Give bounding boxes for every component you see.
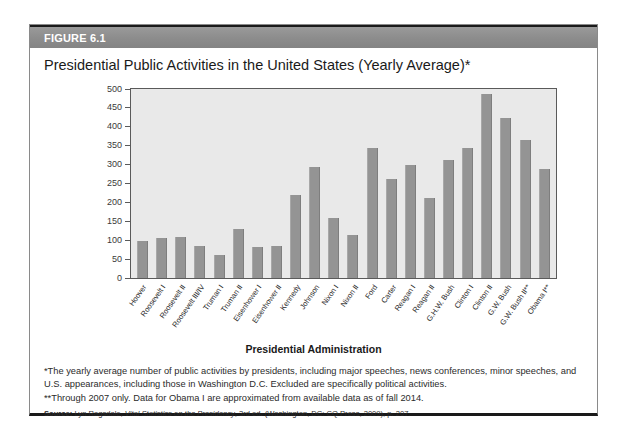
y-axis-tick-label: 200 <box>107 197 122 206</box>
bar <box>481 94 492 278</box>
bar <box>156 238 167 278</box>
figure-page: FIGURE 6.1 Presidential Public Activitie… <box>0 0 627 438</box>
source-title: Vital Statistics on the Presidency <box>125 409 235 418</box>
x-axis-tick-cell: Carter <box>386 281 397 341</box>
bar <box>367 148 378 278</box>
y-axis-tick-label: 150 <box>107 216 122 225</box>
source-publication: , 3rd ed. (Washington, DC: CQ Press, 200… <box>235 409 411 418</box>
footnote-double-asterisk: **Through 2007 only. Data for Obama I ar… <box>44 392 584 405</box>
chart-plot-wrapper: 050100150200250300350400450500 HooverRoo… <box>77 86 557 341</box>
chart-title: Presidential Public Activities in the Un… <box>44 57 470 73</box>
footnote-asterisk: *The yearly average number of public act… <box>44 365 584 392</box>
x-axis-tick-labels: HooverRoosevelt IRoosevelt IIRoosevelt I… <box>130 281 557 341</box>
figure-number-label: FIGURE 6.1 <box>44 32 106 44</box>
y-axis-tick-label: 0 <box>117 273 122 282</box>
bar <box>290 195 301 278</box>
x-axis-tick-cell: Eisenhower II <box>271 281 282 341</box>
x-axis-tick-label: Nixon II <box>338 283 360 309</box>
x-axis-title: Presidential Administration <box>30 343 597 355</box>
figure-container: FIGURE 6.1 Presidential Public Activitie… <box>29 24 598 416</box>
x-axis-tick-cell: Johnson <box>309 281 320 341</box>
y-axis-tick-label: 450 <box>107 103 122 112</box>
bar <box>500 118 511 278</box>
bar <box>271 246 282 279</box>
y-axis-tick-label: 250 <box>107 179 122 188</box>
bar <box>424 198 435 279</box>
bar <box>539 169 550 278</box>
x-axis-tick-label: Ford <box>363 283 379 301</box>
y-axis-tick-label: 100 <box>107 235 122 244</box>
bar <box>462 148 473 278</box>
source-label: Source: <box>44 409 72 418</box>
bar <box>309 167 320 278</box>
y-axis: 050100150200250300350400450500 <box>77 88 130 279</box>
bar <box>405 165 416 278</box>
bar-series <box>131 89 556 278</box>
bar <box>175 237 186 278</box>
figure-header-band: FIGURE 6.1 <box>30 25 597 48</box>
source-author: Lyn Ragsdale, <box>72 409 125 418</box>
y-axis-tick-label: 300 <box>107 160 122 169</box>
x-axis-tick-cell: Nixon I <box>328 281 339 341</box>
x-axis-tick-cell: Kennedy <box>290 281 301 341</box>
y-axis-tick-label: 500 <box>107 84 122 93</box>
bar <box>252 247 263 278</box>
bar <box>347 235 358 278</box>
y-axis-tick-label: 400 <box>107 122 122 131</box>
x-axis-tick-cell: Roosevelt III/IV <box>194 281 205 341</box>
y-axis-tick-label: 350 <box>107 141 122 150</box>
bar <box>137 241 148 278</box>
y-axis-tick-label: 50 <box>112 254 122 263</box>
figure-notes: *The yearly average number of public act… <box>44 365 584 419</box>
bar <box>194 246 205 278</box>
plot-area <box>130 88 557 279</box>
x-axis-tick-cell: Ford <box>367 281 378 341</box>
bar <box>520 140 531 278</box>
bar <box>233 229 244 278</box>
x-axis-tick-cell: Obama I** <box>540 281 551 341</box>
source-line: Source: Lyn Ragsdale, Vital Statistics o… <box>44 409 584 419</box>
bar <box>328 218 339 278</box>
bar <box>214 255 225 278</box>
x-axis-tick-cell: G.H.W. Bush <box>444 281 455 341</box>
bar <box>386 179 397 278</box>
x-axis-tick-cell: Clinton I <box>463 281 474 341</box>
x-axis-tick-cell: Nixon II <box>348 281 359 341</box>
bar <box>443 160 454 278</box>
